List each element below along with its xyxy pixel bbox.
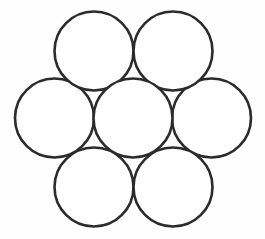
circle-middle-left — [15, 79, 94, 158]
circle-bottom-left — [55, 148, 134, 227]
circle-bottom-right — [134, 148, 213, 227]
figure-root: Seven tangent circles in hexagonal packi… — [0, 0, 265, 239]
circle-top-right — [134, 12, 213, 91]
circle-top-left — [55, 12, 134, 91]
circle-center — [94, 79, 173, 158]
circle-packing-diagram — [0, 0, 265, 239]
